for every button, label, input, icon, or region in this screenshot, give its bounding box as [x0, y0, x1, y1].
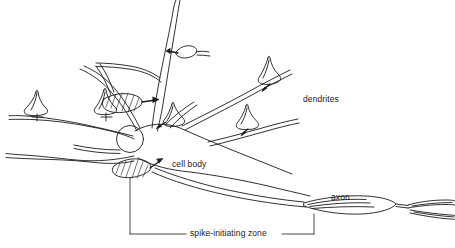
- dendrite-left-upper: [9, 116, 134, 139]
- label-cell-body: cell body: [172, 159, 206, 169]
- synaptic-bouton: [236, 104, 258, 136]
- synaptic-bouton: [258, 56, 280, 91]
- dendrite-lower-left-stub: [74, 145, 120, 154]
- synaptic-bouton: [166, 46, 210, 58]
- nucleus: [117, 126, 144, 153]
- label-dendrites: dendrites: [303, 94, 339, 104]
- dendrite-upper-left-branch: [80, 64, 140, 131]
- axon-initial-segment: [152, 168, 306, 207]
- label-spike-initiating-zone: spike-initiating zone: [190, 228, 267, 238]
- dendrite-upper-right-long: [182, 70, 292, 130]
- myelin-segment: [408, 200, 455, 208]
- dendrite-right-mid: [208, 119, 299, 146]
- synaptic-bouton: [94, 88, 116, 121]
- label-axon: axon: [331, 192, 350, 202]
- spike-zone-leader-lines: [130, 178, 314, 234]
- node-of-ranvier: [396, 204, 408, 208]
- myelin-segment: [304, 196, 396, 214]
- arrowhead: [156, 122, 166, 129]
- arrowhead: [262, 84, 270, 92]
- dendrite-left-lower: [6, 154, 134, 164]
- neuron-illustration: [0, 0, 455, 248]
- axon-terminal-branch: [410, 210, 455, 220]
- dendrite-upper-right-short: [166, 102, 197, 128]
- neuron-diagram-figure: dendrites cell body axon spike-initiatin…: [0, 0, 455, 248]
